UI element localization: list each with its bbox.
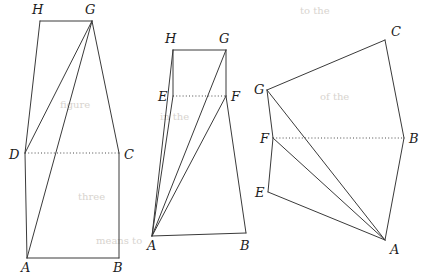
vertex-label-G: G	[219, 31, 229, 46]
vertex-label-A: A	[146, 238, 156, 253]
vertex-label-E: E	[157, 89, 168, 104]
background-bleed-text: figure	[60, 99, 90, 110]
vertex-label-C: C	[391, 24, 401, 39]
vertex-label-G: G	[85, 2, 95, 17]
vertex-label-F: F	[230, 89, 241, 104]
vertex-label-H: H	[31, 2, 44, 17]
vertex-label-B: B	[408, 131, 419, 146]
vertex-label-H: H	[164, 31, 177, 46]
vertex-label-G: G	[254, 82, 264, 97]
vertex-label-C: C	[124, 147, 134, 162]
vertex-label-A: A	[389, 242, 399, 257]
background-bleed-text: in the	[160, 111, 189, 122]
background-bleed-text: to the	[300, 5, 330, 16]
vertex-label-D: D	[8, 147, 20, 162]
vertex-label-B: B	[239, 238, 250, 253]
vertex-label-E: E	[254, 185, 265, 200]
geometry-figure-canvas: to thein thethreemeans toof thefigure HG…	[0, 0, 424, 276]
vertex-label-A: A	[20, 260, 30, 275]
vertex-label-F: F	[259, 131, 270, 146]
vertex-label-B: B	[112, 260, 123, 275]
background-bleed-text: three	[78, 191, 105, 202]
background-bleed-text: of the	[320, 91, 349, 102]
